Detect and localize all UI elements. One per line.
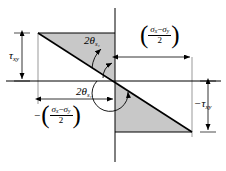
two-theta-s1-upper-label: 2θs₁ (84, 35, 100, 47)
sigma-fraction-lower: σx−σy 2 (50, 105, 73, 125)
close-paren-upper: ) (171, 24, 179, 46)
sigma-y-upper-sub: y (167, 28, 169, 34)
tau-xy-subscript: xy (13, 55, 19, 62)
sigma-difference-over-two-positive: ( σx−σy 2 ) (140, 24, 180, 46)
figure-canvas (0, 0, 226, 171)
negative-sign-lower: − (34, 110, 41, 121)
mohr-circle-figure: τxy −τxy 2θs₁ 2θs₁ ( σx−σy 2 ) − ( σx−σy… (0, 0, 226, 171)
negative-tau-xy-label: −τxy (194, 98, 211, 110)
sigma-fraction-lower-denominator: 2 (50, 116, 73, 125)
close-paren-lower: ) (73, 104, 81, 126)
sigma-fraction-upper: σx−σy 2 (148, 25, 171, 45)
two-theta-lower-text: 2θ (76, 85, 87, 97)
two-theta-upper-text: 2θ (84, 34, 95, 46)
sigma-y-lower-sub: y (68, 108, 70, 114)
sigma-difference-over-two-negative: − ( σx−σy 2 ) (34, 104, 81, 126)
negative-tau-subscript: xy (205, 103, 211, 110)
two-theta-upper-subscript: s₁ (95, 40, 100, 47)
two-theta-s1-lower-label: 2θs₁ (76, 86, 92, 98)
open-paren-upper: ( (140, 24, 148, 46)
tau-xy-label: τxy (9, 50, 19, 62)
two-theta-lower-subscript: s₁ (87, 91, 92, 98)
open-paren-lower: ( (41, 104, 49, 126)
sigma-fraction-upper-denominator: 2 (148, 36, 171, 45)
